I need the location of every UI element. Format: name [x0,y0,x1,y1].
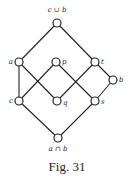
node-a [15,58,23,66]
edge-c-bottom [19,101,58,138]
label-bottom: a ∩ b [49,145,68,153]
label-s: s [101,98,105,106]
label-b: b [119,76,124,84]
node-q [53,97,61,105]
node-top [53,19,61,27]
edge-top-a [19,23,57,62]
node-p [52,58,60,66]
node-s [91,97,99,105]
node-t [91,58,99,66]
figure-caption: Fig. 31 [49,159,86,174]
edge-top-t [57,23,95,62]
node-b [109,76,117,84]
label-q: q [63,99,68,107]
node-bottom [54,134,62,142]
lattice-diagram: c ∪ b a p t b c q s a ∩ b Fig. 31 [0,0,134,178]
label-t: t [101,58,104,66]
label-c: c [9,97,13,105]
label-p: p [62,58,67,66]
label-top: c ∪ b [48,6,67,14]
node-c [15,97,23,105]
nodes [15,19,117,142]
edges [19,23,113,138]
label-a: a [9,58,13,66]
